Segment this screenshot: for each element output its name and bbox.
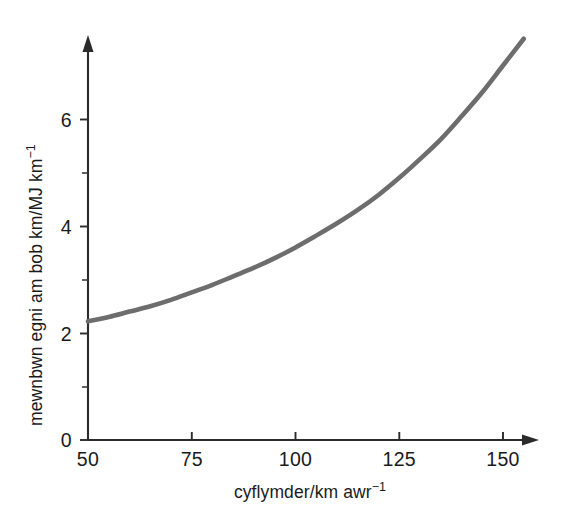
y-tick-label-2: 2	[61, 323, 72, 345]
y-axis-title-exponent: −1	[24, 144, 38, 158]
y-axis-title: mewnbwn egni am bob km/MJ km−1	[24, 144, 46, 426]
x-tick-label-50: 50	[77, 448, 99, 470]
x-tick-label-100: 100	[279, 448, 312, 470]
chart-background	[0, 0, 567, 522]
x-tick-label-75: 75	[181, 448, 203, 470]
x-tick-label-125: 125	[383, 448, 416, 470]
x-tick-label-150: 150	[486, 448, 519, 470]
y-tick-label-6: 6	[61, 109, 72, 131]
x-axis-title-exponent: −1	[372, 480, 386, 494]
y-tick-label-4: 4	[61, 216, 72, 238]
y-tick-label-0: 0	[61, 429, 72, 451]
x-axis-title-text: cyflymder/km awr	[234, 482, 372, 502]
chart-figure: 6 4 2 0 50 75 100 125 150 cyflymder/km a…	[0, 0, 567, 522]
chart-svg: 6 4 2 0 50 75 100 125 150 cyflymder/km a…	[0, 0, 567, 522]
x-axis-title: cyflymder/km awr−1	[234, 480, 386, 502]
y-axis-title-text: mewnbwn egni am bob km/MJ km	[26, 159, 46, 426]
